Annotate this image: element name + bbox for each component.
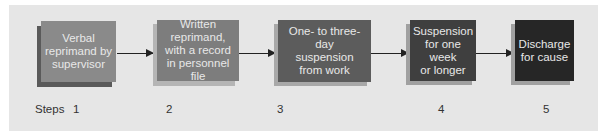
box-4-line: or longer — [413, 64, 473, 77]
box-3-line: suspension — [281, 51, 368, 64]
step-number-4: 4 — [438, 103, 444, 115]
step-number-1: 1 — [73, 103, 79, 115]
arrow-3-to-4 — [371, 53, 408, 54]
steps-label: Steps — [35, 103, 64, 115]
box-3-line: One- to three-day — [281, 25, 368, 51]
step-5-box: Discharge for cause — [515, 20, 574, 81]
step-2-box: Written reprimand, with a record in pers… — [157, 20, 239, 81]
arrow-2-to-3 — [239, 53, 275, 54]
step-number-5: 5 — [543, 103, 549, 115]
step-3-box: One- to three-day suspension from work — [278, 20, 371, 82]
box-2-line: Written — [160, 18, 236, 31]
box-5-line: for cause — [519, 51, 571, 64]
step-4-box: Suspension for one week or longer — [410, 20, 476, 81]
box-2-line: reprimand, — [160, 31, 236, 44]
box-2-line: with a record — [160, 44, 236, 57]
box-2-line: in personnel file — [160, 57, 236, 83]
step-1-box: Verbal reprimand by supervisor — [41, 21, 116, 82]
arrow-4-to-5 — [476, 53, 513, 54]
box-4-line: Suspension — [413, 25, 473, 38]
box-1-line: supervisor — [45, 58, 112, 71]
box-4-line: for one week — [413, 38, 473, 64]
box-5-line: Discharge — [519, 38, 571, 51]
arrow-1-to-2 — [117, 53, 153, 54]
step-number-2: 2 — [166, 103, 172, 115]
step-number-3: 3 — [277, 103, 283, 115]
box-1-line: reprimand by — [45, 45, 112, 58]
box-1-line: Verbal — [45, 32, 112, 45]
box-3-line: from work — [281, 64, 368, 77]
